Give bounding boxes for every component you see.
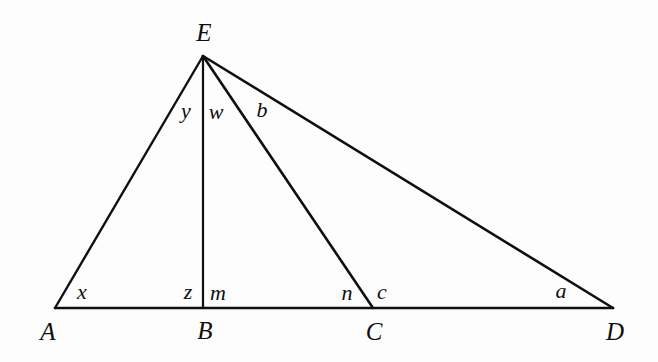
angle-label-y: y: [181, 100, 191, 122]
angle-label-w: w: [209, 101, 224, 123]
segment-AE: [55, 56, 203, 308]
geometry-figure: ABCDExzmncaywb: [0, 0, 658, 362]
vertex-label-E: E: [196, 20, 211, 45]
vertex-label-A: A: [40, 319, 55, 344]
vertex-label-C: C: [366, 319, 383, 344]
segment-EC: [203, 56, 373, 308]
figure-canvas: [0, 0, 658, 362]
angle-label-b: b: [257, 99, 268, 121]
angle-label-z: z: [184, 281, 193, 303]
angle-label-n: n: [342, 282, 353, 304]
vertex-label-D: D: [606, 319, 624, 344]
angle-label-c: c: [377, 281, 387, 303]
angle-label-x: x: [77, 281, 87, 303]
angle-label-a: a: [556, 280, 567, 302]
segments-group: [55, 56, 613, 308]
segment-ED: [203, 56, 613, 308]
vertex-label-B: B: [197, 318, 212, 343]
angle-label-m: m: [210, 282, 226, 304]
